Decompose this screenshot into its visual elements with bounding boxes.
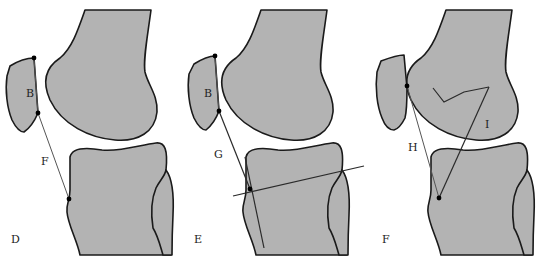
landmark-dot	[32, 56, 37, 61]
landmark-dot	[36, 111, 41, 116]
patella-shape	[376, 55, 407, 130]
tendon-length-label: G	[214, 148, 223, 161]
landmark-dot	[67, 197, 72, 202]
landmark-dot	[248, 187, 253, 192]
landmark-dot	[405, 84, 410, 89]
landmark-dot	[217, 109, 222, 114]
panel-d: B F D	[6, 10, 173, 255]
patella-label: B	[204, 87, 212, 100]
femur-shape	[407, 10, 518, 140]
panel-label: F	[382, 233, 390, 246]
knee-diagram-figure: B F D B G E H I F	[0, 0, 548, 261]
femur-shape	[46, 10, 157, 140]
panel-f: H I F	[376, 10, 534, 255]
tendon-length-label: H	[408, 141, 418, 154]
femur-shape	[222, 10, 333, 140]
femoral-length-label: I	[485, 118, 489, 131]
landmark-dot	[213, 54, 218, 59]
landmark-dot	[437, 196, 442, 201]
panel-label: E	[194, 233, 202, 246]
patella-label: B	[26, 87, 34, 100]
panel-label: D	[11, 233, 20, 246]
tendon-length-label: F	[41, 155, 49, 168]
panel-e: B G E	[188, 10, 364, 255]
